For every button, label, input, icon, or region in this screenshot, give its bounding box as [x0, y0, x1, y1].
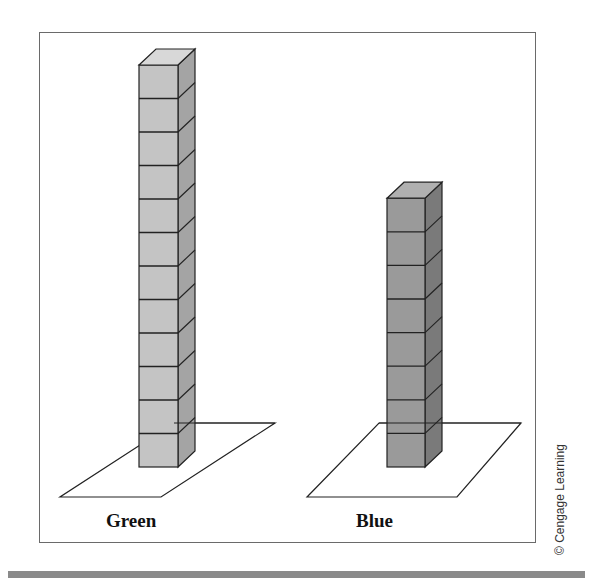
- cube-towers-diagram: [0, 0, 593, 583]
- green-tower-label: Green: [106, 510, 156, 532]
- green-tower: [139, 49, 195, 467]
- bottom-rule: [8, 571, 585, 578]
- copyright-credit: © Cengage Learning: [553, 444, 567, 555]
- blue-tower-label: Blue: [356, 510, 393, 532]
- blue-tower: [387, 182, 442, 467]
